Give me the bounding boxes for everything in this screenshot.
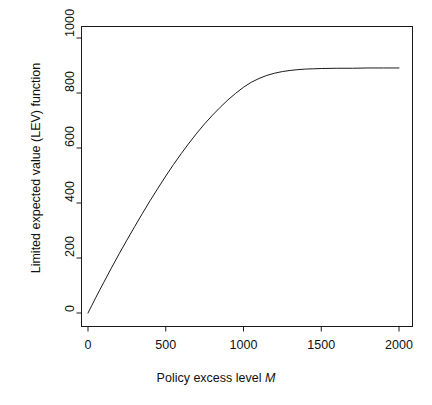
y-axis-title: Limited expected value (LEV) function — [29, 18, 43, 318]
x-tick-label: 1000 — [229, 338, 257, 352]
x-tick-label: 2000 — [385, 338, 413, 352]
chart-figure: 0500100015002000 02004006008001000 Polic… — [0, 0, 432, 405]
x-axis-ticks — [88, 327, 399, 332]
x-tick-label: 0 — [84, 338, 91, 352]
plot-frame — [82, 27, 413, 327]
x-tick-label: 1500 — [307, 338, 335, 352]
lev-curve-line — [88, 68, 399, 313]
plot-area — [0, 0, 432, 405]
x-axis-title-text: Policy excess level — [157, 371, 265, 385]
x-tick-label: 500 — [155, 338, 176, 352]
y-axis-ticks — [77, 38, 82, 313]
x-axis-title: Policy excess level M — [0, 371, 432, 385]
x-axis-title-symbol: M — [265, 371, 275, 385]
